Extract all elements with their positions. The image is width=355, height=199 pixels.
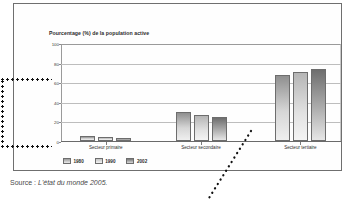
y-tick-label: 20 xyxy=(49,120,59,125)
source-caption: Source : L'état du monde 2005. xyxy=(10,179,107,186)
y-tick-mark xyxy=(59,142,61,143)
x-tick-mark xyxy=(106,142,107,145)
chart-title: Pourcentage (%) de la population active xyxy=(49,30,149,36)
legend-item-2002[interactable]: 2002 xyxy=(126,158,147,164)
chart-legend: 198019902002 xyxy=(63,158,147,164)
annotation-leader-line xyxy=(195,128,265,199)
figure-frame: Pourcentage (%) de la population active … xyxy=(13,3,342,171)
y-tick-label: 0 xyxy=(49,140,59,145)
bar[interactable] xyxy=(275,75,290,141)
legend-swatch-icon xyxy=(126,158,134,164)
bar[interactable] xyxy=(311,69,326,141)
figure-root: Pourcentage (%) de la population active … xyxy=(0,0,355,199)
legend-label: 1990 xyxy=(105,159,115,164)
annotation-dotted-bottom xyxy=(0,145,52,148)
gridline xyxy=(61,64,341,65)
bar[interactable] xyxy=(293,72,308,141)
source-prefix: Source : xyxy=(10,179,36,186)
y-tick-label: 80 xyxy=(49,61,59,66)
bar[interactable] xyxy=(176,112,191,141)
legend-swatch-icon xyxy=(95,158,103,164)
legend-label: 1980 xyxy=(74,159,84,164)
annotation-dotted-vertical xyxy=(1,79,4,147)
source-work: L'état du monde 2005. xyxy=(38,179,107,186)
bar-group xyxy=(275,69,326,141)
y-tick-label: 60 xyxy=(49,81,59,86)
legend-swatch-icon xyxy=(63,158,71,164)
y-tick-label: 100 xyxy=(49,42,59,47)
x-tick-mark xyxy=(300,142,301,145)
x-axis-label: Secteur tertiaire xyxy=(260,145,340,150)
legend-item-1980[interactable]: 1980 xyxy=(63,158,84,164)
x-axis-label: Secteur primaire xyxy=(66,145,146,150)
legend-label: 2002 xyxy=(137,159,147,164)
y-tick-label: 40 xyxy=(49,100,59,105)
legend-item-1990[interactable]: 1990 xyxy=(95,158,116,164)
annotation-dotted-top xyxy=(0,78,52,81)
